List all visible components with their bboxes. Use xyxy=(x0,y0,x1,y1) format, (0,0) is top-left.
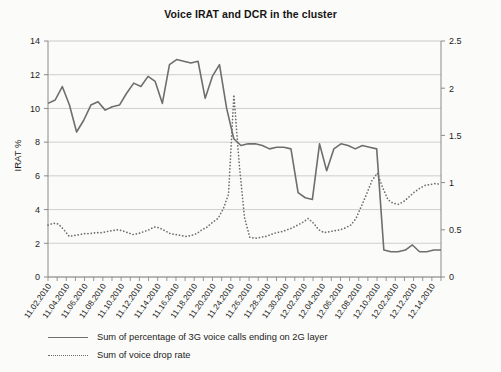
y-tick-label-left: 2 xyxy=(35,239,40,249)
chart-legend: Sum of percentage of 3G voice calls endi… xyxy=(46,330,446,366)
y-tick-label-left: 0 xyxy=(35,272,40,282)
y-tick-label-left: 4 xyxy=(35,205,40,215)
y-tick-label-left: 12 xyxy=(30,70,40,80)
y-tick-label-right: 2.5 xyxy=(449,36,462,46)
series-line-1 xyxy=(48,60,441,252)
y-tick-label-left: 6 xyxy=(35,171,40,181)
y-tick-label-left: 8 xyxy=(35,137,40,147)
legend-item-dotted: Sum of voice drop rate xyxy=(46,348,446,363)
legend-key-dotted-line-icon xyxy=(46,350,90,362)
y-tick-label-right: 0.5 xyxy=(449,225,462,235)
y-tick-label-left: 14 xyxy=(30,36,40,46)
legend-label-solid: Sum of percentage of 3G voice calls endi… xyxy=(97,330,328,345)
legend-item-solid: Sum of percentage of 3G voice calls endi… xyxy=(46,330,446,345)
legend-key-solid-line-icon xyxy=(46,332,90,344)
legend-label-dotted: Sum of voice drop rate xyxy=(97,348,191,363)
chart-plot-area: 0246810121400.511.522.511.02.201011.04.2… xyxy=(0,0,501,372)
y-tick-label-left: 10 xyxy=(30,104,40,114)
y-tick-label-right: 1 xyxy=(449,178,454,188)
y-tick-label-right: 0 xyxy=(449,272,454,282)
y-tick-label-right: 1.5 xyxy=(449,131,462,141)
y-tick-label-right: 2 xyxy=(449,84,454,94)
chart-container: Voice IRAT and DCR in the cluster IRAT %… xyxy=(0,0,501,372)
